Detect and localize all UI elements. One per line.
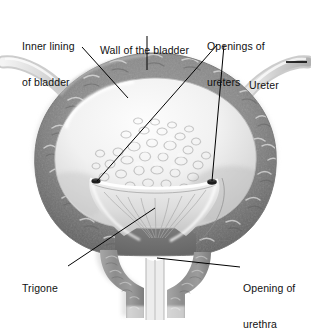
label-wall-line1: Wall of the bladder [100, 44, 189, 56]
label-trigone: Trigone [22, 258, 58, 306]
label-ureter-line1: Ureter [249, 79, 279, 91]
label-trigone-line1: Trigone [22, 282, 58, 294]
label-wall-of-the-bladder: Wall of the bladder [100, 20, 189, 68]
label-inner-lining-of-bladder: Inner lining of bladder [22, 16, 75, 100]
label-opening-urethra-line1: Opening of [243, 282, 295, 294]
label-inner-lining-line1: Inner lining [22, 40, 75, 52]
label-opening-of-urethra: Opening of urethra [243, 258, 295, 332]
label-opening-urethra-line2: urethra [243, 318, 295, 330]
label-inner-lining-line2: of bladder [22, 76, 75, 88]
label-openings-line1: Openings of [207, 40, 265, 52]
label-ureter: Ureter [249, 55, 279, 103]
